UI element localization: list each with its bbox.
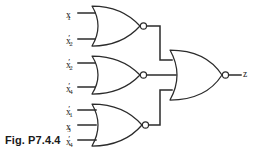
wire-gate3-to-gate4 (149, 90, 172, 125)
gate-1-output-bubble (140, 23, 146, 29)
gate-2-body (92, 56, 140, 94)
gate-4-nor (170, 50, 241, 100)
label-gate1-input-1: x1 (66, 8, 71, 22)
wire-gate1-to-gate4 (147, 26, 172, 60)
gate-3-nor (78, 104, 149, 146)
gate-1-body (92, 6, 140, 46)
gate-4-body (170, 50, 222, 100)
gate-3-output-bubble (142, 122, 148, 128)
figure-container: x1 x′2 x′2 x′4 x′1 x3 x′4 z Fig. P7.4.4 (0, 0, 253, 158)
label-gate3-input-2: x3 (66, 120, 71, 134)
gate-1-nor (78, 6, 147, 46)
label-gate3-input-1: x′1 (66, 105, 73, 119)
label-gate1-input-2: x′2 (66, 34, 73, 48)
label-gate3-input-3: x′4 (66, 135, 73, 149)
label-output-z: z (243, 70, 247, 80)
gate-3-body (92, 104, 142, 146)
label-gate2-input-1: x′2 (66, 58, 73, 72)
figure-caption: Fig. P7.4.4 (5, 134, 61, 146)
gate-2-output-bubble (140, 72, 146, 78)
label-gate2-input-2: x′4 (66, 82, 73, 96)
gate-4-output-bubble (222, 72, 228, 78)
gate-2-nor (78, 56, 147, 94)
